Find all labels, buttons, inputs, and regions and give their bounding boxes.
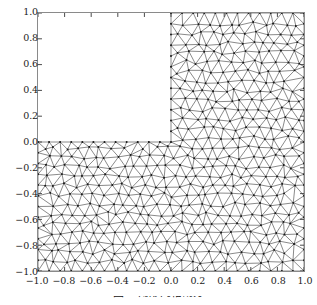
- x-tick-label: 0.8: [271, 276, 286, 286]
- x-tick-label: −0.4: [106, 276, 129, 286]
- y-tick-label: 0.8: [23, 33, 38, 43]
- x-tick-label: 0.6: [244, 276, 259, 286]
- figure-caption-clipped: 图 三角形网格剖分: [0, 296, 317, 305]
- x-tick-label: 0.2: [190, 276, 205, 286]
- y-tick-label: −0.4: [15, 189, 38, 199]
- x-tick-label: −0.2: [133, 276, 156, 286]
- y-tick-label: 0.0: [23, 137, 38, 147]
- y-tick-label: −0.8: [15, 241, 38, 251]
- y-tick-label: 0.4: [23, 85, 38, 95]
- x-tick-label: −1.0: [26, 276, 49, 286]
- figure-container: −1.0−0.8−0.6−0.4−0.20.00.20.40.60.81.0 −…: [0, 0, 317, 305]
- y-tick-label: −0.2: [15, 163, 38, 173]
- plot-frame: [37, 12, 305, 272]
- x-tick-label: 1.0: [298, 276, 313, 286]
- x-tick-label: −0.6: [79, 276, 102, 286]
- y-tick-label: 0.2: [23, 111, 38, 121]
- x-tick-label: 0.0: [164, 276, 179, 286]
- x-tick-label: 0.4: [217, 276, 232, 286]
- triangular-mesh: [38, 13, 304, 271]
- y-tick-label: −0.6: [15, 215, 38, 225]
- y-tick-label: 1.0: [23, 7, 38, 17]
- y-tick-label: 0.6: [23, 59, 38, 69]
- figure-caption-text: 图 三角形网格剖分: [113, 296, 205, 298]
- x-tick-label: −0.8: [52, 276, 75, 286]
